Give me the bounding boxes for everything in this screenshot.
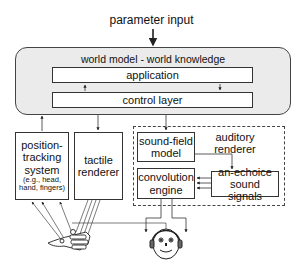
app-control-arrows-icon [85, 84, 220, 91]
world-to-blocks-arrows-icon [42, 115, 166, 131]
connectors-overlay [0, 0, 303, 269]
listener-head-icon [150, 229, 182, 259]
soundfield-to-anechoic-arrow-icon [195, 154, 232, 169]
anechoic-to-convolution-arrows-icon [197, 178, 211, 188]
hand-icon [48, 230, 90, 251]
